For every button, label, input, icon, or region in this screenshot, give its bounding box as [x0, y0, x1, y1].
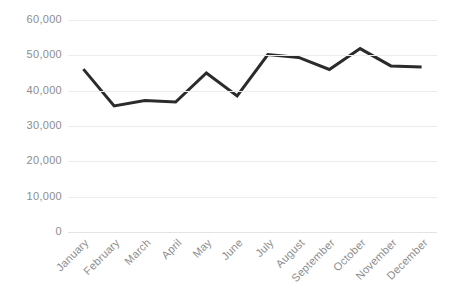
plot-area: [68, 20, 437, 232]
y-tick-label: 20,000: [0, 155, 62, 166]
y-axis: 010,00020,00030,00040,00050,00060,000: [0, 0, 62, 305]
gridline: [68, 197, 437, 198]
gridline: [68, 55, 437, 56]
y-tick-label: 60,000: [0, 14, 62, 25]
x-axis: JanuaryFebruaryMarchAprilMayJuneJulyAugu…: [68, 233, 437, 305]
gridline: [68, 20, 437, 21]
y-tick-label: 50,000: [0, 49, 62, 60]
gridline: [68, 126, 437, 127]
gridline: [68, 91, 437, 92]
gridline: [68, 161, 437, 162]
y-tick-label: 0: [0, 226, 62, 237]
y-tick-label: 40,000: [0, 85, 62, 96]
line-chart: 010,00020,00030,00040,00050,00060,000 Ja…: [0, 0, 458, 305]
y-tick-label: 10,000: [0, 191, 62, 202]
y-tick-label: 30,000: [0, 120, 62, 131]
data-series-line: [83, 49, 421, 106]
